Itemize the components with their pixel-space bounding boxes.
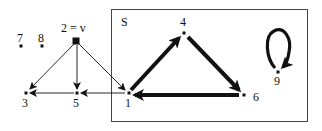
node-2-v	[73, 38, 80, 45]
edge-9-9-self-loop	[267, 30, 289, 68]
edge-2-1	[79, 44, 125, 90]
node-label-4: 4	[180, 15, 186, 29]
node-label-5: 5	[73, 96, 79, 110]
edge-1-4	[131, 38, 179, 90]
edge-2-3	[30, 44, 74, 89]
set-s-box	[112, 10, 308, 122]
node-4	[183, 32, 186, 35]
node-label-7: 7	[17, 31, 23, 45]
node-label-2: 2 = v	[61, 21, 86, 35]
node-label-1: 1	[125, 96, 131, 110]
node-5	[76, 92, 79, 95]
edge-4-6	[188, 37, 239, 90]
node-6	[243, 94, 246, 97]
node-label-9: 9	[274, 74, 280, 88]
graph-diagram: S 1 2 = v 3 4 5 6 7 8 9	[0, 0, 322, 131]
set-s-label: S	[121, 15, 128, 29]
node-label-3: 3	[22, 96, 28, 110]
node-label-6: 6	[253, 90, 259, 104]
node-label-8: 8	[38, 31, 44, 45]
node-3	[25, 92, 28, 95]
node-1	[128, 92, 131, 95]
